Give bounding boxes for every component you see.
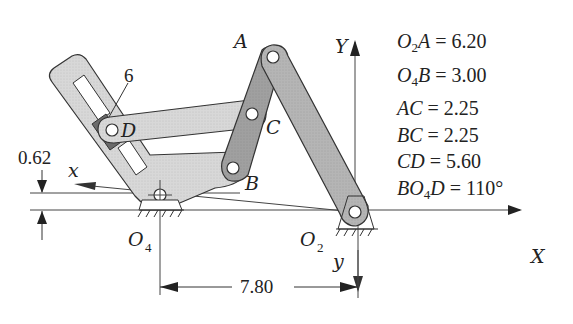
pin-a <box>267 51 279 63</box>
pin-b <box>227 162 239 174</box>
svg-text:4: 4 <box>145 240 152 255</box>
param-bc: BC = 2.25 <box>397 122 503 149</box>
label-global-y: Y <box>335 35 350 57</box>
label-offset-0-62: 0.62 <box>18 147 51 168</box>
label-slider-6: 6 <box>124 65 134 86</box>
svg-text:O: O <box>128 228 144 250</box>
label-global-x: X <box>529 245 546 267</box>
pin-c <box>246 108 258 120</box>
label-b: B <box>244 172 259 194</box>
param-o4b: O4B = 3.00 <box>397 62 503 96</box>
label-a: A <box>232 30 248 52</box>
label-o2: O 2 <box>300 228 324 255</box>
label-d: D <box>120 119 136 141</box>
param-ac: AC = 2.25 <box>397 95 503 122</box>
pin-d <box>106 124 118 136</box>
svg-text:2: 2 <box>317 240 324 255</box>
label-c: C <box>266 116 281 138</box>
param-angle-bo4d: BO4D = 110° <box>397 175 503 209</box>
param-o2a: O2A = 6.20 <box>397 28 503 62</box>
label-local-y: y <box>332 250 344 272</box>
param-cd: CD = 5.60 <box>397 148 503 175</box>
label-o4: O 4 <box>128 228 152 255</box>
parameter-list: O2A = 6.20 O4B = 3.00 AC = 2.25 BC = 2.2… <box>397 28 503 208</box>
label-local-x: x <box>68 159 79 181</box>
label-distance-7-80: 7.80 <box>240 276 273 297</box>
svg-text:O: O <box>300 228 316 250</box>
offset-dimension <box>37 170 47 240</box>
